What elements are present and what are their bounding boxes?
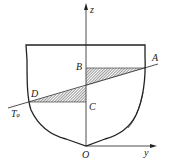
point-b-label: B [76,62,82,72]
ship-section-diagram [0,0,173,161]
waterline-label-subscript: φ [17,112,20,118]
origin-label: O [82,150,89,160]
z-axis-label: z [90,5,94,15]
y-axis-label: y [144,148,148,158]
hatched-immersed-wedge [30,86,86,102]
waterline-label: Tφ [11,109,20,119]
point-a-label: A [152,53,158,63]
point-d-label: D [31,89,38,99]
point-c-label: C [89,102,96,112]
